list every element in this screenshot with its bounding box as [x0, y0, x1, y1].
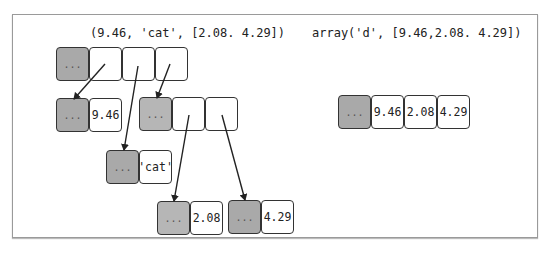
arrow-list1-to-float-b: [222, 115, 245, 200]
arrow-slot2-to-list: [157, 64, 170, 98]
array-value-1: 2.08: [404, 95, 437, 129]
array-caption: array('d', [9.46,2.08. 4.29]): [312, 26, 522, 40]
arrow-slot1-to-str: [124, 66, 138, 150]
array-value-0: 9.46: [371, 95, 404, 129]
array-header-cell: ...: [338, 95, 371, 129]
arrow-slot0-to-float: [74, 64, 105, 99]
array-value-2: 4.29: [437, 95, 470, 129]
arrow-list0-to-float-a: [174, 115, 189, 201]
